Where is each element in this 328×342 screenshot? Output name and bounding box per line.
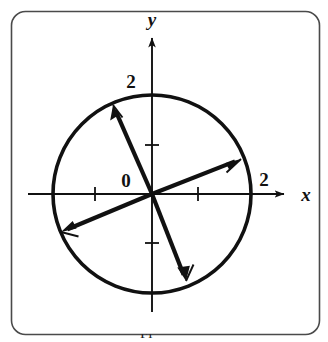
vector-upper-right bbox=[152, 159, 241, 194]
x-axis-label: x bbox=[300, 184, 311, 205]
figure-container: y x 0 2 2 Fi bbox=[0, 0, 328, 342]
x-tick-label-2: 2 bbox=[259, 169, 269, 190]
vector-upper-left bbox=[110, 105, 152, 194]
origin-label: 0 bbox=[121, 170, 131, 191]
rounded-panel-border bbox=[12, 12, 320, 335]
vector-lower-right bbox=[152, 194, 194, 281]
vector-lower-left bbox=[61, 194, 152, 237]
y-axis-label: y bbox=[146, 9, 157, 30]
figure-caption-text: Fi bbox=[140, 334, 153, 342]
figure-caption-clipped: Fi bbox=[0, 334, 328, 342]
y-tick-label-2: 2 bbox=[126, 71, 136, 92]
vector-circle-diagram: y x 0 2 2 bbox=[0, 0, 328, 342]
